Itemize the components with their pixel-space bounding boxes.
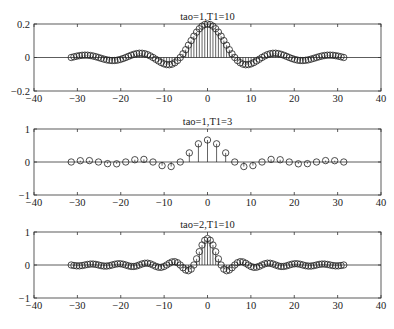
subplot-tao1-t1-10: −40−30−20−10010203040−0.200.2tao=1,T1=10 <box>11 11 386 104</box>
subplot-title: tao=2,T1=10 <box>180 219 235 230</box>
x-tick-label: 0 <box>205 300 210 311</box>
x-tick-label: 20 <box>289 93 300 104</box>
x-tick-label: 40 <box>376 197 387 208</box>
x-tick-label: 30 <box>332 300 343 311</box>
x-tick-label: −20 <box>113 197 129 208</box>
x-tick-label: 20 <box>289 300 300 311</box>
y-tick-label: −1 <box>19 190 30 201</box>
x-tick-label: −20 <box>113 300 129 311</box>
y-tick-label: 1 <box>25 227 30 238</box>
y-tick-label: −1 <box>19 293 30 304</box>
x-tick-label: 0 <box>205 93 210 104</box>
x-tick-label: −10 <box>156 197 172 208</box>
x-tick-label: 10 <box>246 300 257 311</box>
x-tick-label: 30 <box>332 197 343 208</box>
x-tick-label: 10 <box>246 93 257 104</box>
x-tick-label: −30 <box>69 93 85 104</box>
subplot-title: tao=1,T1=3 <box>183 116 232 127</box>
subplot-tao2-t1-10: −40−30−20−10010203040−101tao=2,T1=10 <box>19 219 386 311</box>
y-tick-label: 0 <box>25 260 30 271</box>
subplot-title: tao=1,T1=10 <box>180 11 235 22</box>
x-tick-label: −20 <box>113 93 129 104</box>
y-tick-label: −0.2 <box>11 86 30 97</box>
x-tick-label: −10 <box>156 93 172 104</box>
x-tick-label: −10 <box>156 300 172 311</box>
figure-canvas: −40−30−20−10010203040−0.200.2tao=1,T1=10… <box>0 0 394 329</box>
subplot-tao1-t1-3: −40−30−20−10010203040−101tao=1,T1=3 <box>19 116 386 208</box>
y-tick-label: 1 <box>25 124 30 135</box>
y-tick-label: 0.2 <box>17 19 30 30</box>
y-tick-label: 0 <box>25 157 30 168</box>
x-tick-label: 40 <box>376 93 387 104</box>
x-tick-label: 40 <box>376 300 387 311</box>
x-tick-label: 30 <box>332 93 343 104</box>
x-tick-label: −30 <box>69 197 85 208</box>
x-tick-label: 0 <box>205 197 210 208</box>
x-tick-label: −30 <box>69 300 85 311</box>
y-tick-label: 0 <box>25 52 30 63</box>
x-tick-label: 20 <box>289 197 300 208</box>
x-tick-label: 10 <box>246 197 257 208</box>
